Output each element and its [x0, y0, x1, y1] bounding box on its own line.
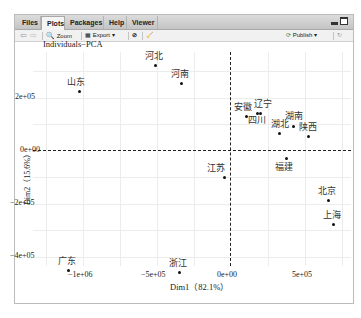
- point-label: 四川: [248, 113, 266, 126]
- gridline: [46, 52, 47, 266]
- remove-icon: ⊘: [132, 32, 137, 38]
- point-label: 安徽: [234, 100, 252, 113]
- x-tick-label: 5e+05: [292, 270, 312, 279]
- tab-files[interactable]: Files: [17, 16, 41, 29]
- data-point: [332, 223, 335, 226]
- data-point: [307, 135, 310, 138]
- plots-pane: Files Plots Packages Help Viewer ⇦ ⇨ 🔍 Z…: [14, 14, 354, 304]
- point-label: 辽宁: [254, 97, 272, 110]
- tab-plots[interactable]: Plots: [41, 16, 65, 30]
- clear-all-button[interactable]: 🧹: [146, 30, 153, 41]
- data-point: [278, 132, 281, 135]
- minimize-icon[interactable]: [331, 22, 338, 25]
- data-point: [223, 176, 226, 179]
- point-label: 湖北: [271, 117, 289, 130]
- publish-button[interactable]: ⟳ Publish ▾: [286, 30, 317, 41]
- broom-icon: 🧹: [146, 32, 153, 38]
- point-label: 江苏: [207, 161, 225, 174]
- point-label: 浙江: [169, 256, 187, 269]
- x-tick-label: 0e+00: [217, 270, 237, 279]
- data-point: [178, 271, 181, 274]
- point-label: 福建: [275, 160, 293, 173]
- point-label: 山东: [67, 75, 85, 88]
- gridline: [342, 52, 343, 266]
- gridline: [194, 52, 195, 266]
- gridline: [33, 204, 351, 205]
- y-tick-label: 2e+05: [15, 92, 35, 101]
- magnifier-icon: 🔍: [46, 32, 55, 39]
- point-label: 北京: [318, 184, 336, 197]
- gridline: [157, 52, 158, 266]
- x-tick-label: −1e+06: [68, 270, 93, 279]
- point-label: 河南: [171, 67, 189, 80]
- point-label: 广东: [58, 254, 76, 267]
- point-label: 河北: [145, 49, 163, 62]
- gridline: [120, 52, 121, 266]
- gridline: [33, 230, 351, 231]
- tab-bar: Files Plots Packages Help Viewer: [15, 15, 353, 30]
- chevron-down-icon: ▾: [112, 32, 115, 38]
- data-point: [78, 90, 81, 93]
- back-arrow-icon[interactable]: ⇦: [20, 30, 27, 41]
- chevron-down-icon: ▾: [314, 32, 317, 38]
- data-point: [67, 269, 70, 272]
- gridline: [33, 177, 351, 178]
- maximize-icon[interactable]: [340, 17, 348, 25]
- toolbar-divider: [128, 32, 129, 40]
- publish-label: Publish: [293, 32, 313, 38]
- point-label: 陕西: [299, 120, 317, 133]
- chart-title: Individuals−PCA: [43, 39, 103, 49]
- refresh-icon: ↻: [337, 32, 342, 38]
- gridline: [305, 52, 306, 266]
- export-icon: ▦: [85, 32, 91, 38]
- data-point: [327, 199, 330, 202]
- gridline: [33, 71, 351, 72]
- y-axis-title: Dim2（15.6%）: [21, 143, 32, 213]
- remove-plot-button[interactable]: ⊘: [132, 30, 137, 41]
- data-point: [154, 64, 157, 67]
- tab-packages[interactable]: Packages: [65, 16, 104, 29]
- toolbar-divider: [142, 32, 143, 40]
- x-axis-title: Dim1（82.1%）: [170, 280, 229, 292]
- export-label: Export: [93, 32, 110, 38]
- gridline: [268, 52, 269, 266]
- gridline: [33, 257, 351, 258]
- y-tick-label: −4e+05: [10, 251, 35, 260]
- publish-icon: ⟳: [286, 32, 291, 38]
- forward-arrow-icon[interactable]: ⇨: [30, 30, 37, 41]
- refresh-button[interactable]: ↻: [337, 30, 342, 41]
- toolbar-divider: [333, 32, 334, 40]
- point-label: 上海: [323, 208, 341, 221]
- tab-help[interactable]: Help: [104, 16, 127, 29]
- horizontal-zero-line: [33, 150, 351, 151]
- data-point: [292, 125, 295, 128]
- data-point: [180, 82, 183, 85]
- gridline: [33, 98, 351, 99]
- tab-viewer[interactable]: Viewer: [127, 16, 158, 29]
- pca-plot: Individuals−PCA 2e+05 0e+00 −2e+05 −4e+0…: [15, 42, 353, 305]
- x-tick-label: −5e+05: [141, 270, 166, 279]
- vertical-zero-line: [230, 52, 231, 266]
